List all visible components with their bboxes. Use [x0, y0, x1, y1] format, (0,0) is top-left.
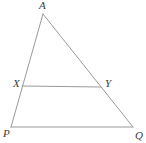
segment-xy: [22, 86, 101, 87]
vertex-label-y: Y: [105, 78, 111, 89]
figure-canvas: [0, 0, 146, 143]
geometry-figure: A X Y P Q: [0, 0, 146, 143]
vertex-label-q: Q: [135, 130, 143, 141]
vertex-label-a: A: [39, 0, 46, 11]
vertex-label-p: P: [3, 128, 10, 139]
vertex-label-x: X: [13, 78, 20, 89]
segment-ap: [11, 14, 43, 127]
segment-aq: [43, 14, 133, 127]
